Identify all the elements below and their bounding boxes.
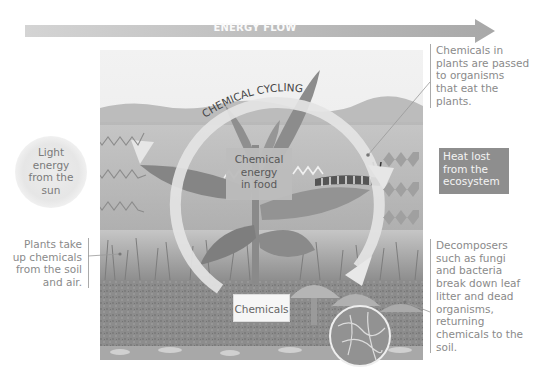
leader-lines [0,0,535,391]
